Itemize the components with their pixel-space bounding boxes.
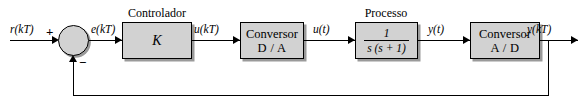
block-controlador-gain: K (152, 33, 161, 49)
wire-reference-to-sum (10, 40, 54, 41)
block-conversor-da[interactable]: Conversor D / A (240, 22, 304, 59)
block-diagram-canvas: Controlador Processo r(kT) + − e(kT) K u… (0, 0, 583, 103)
sign-plus: + (46, 25, 53, 38)
arrowhead-control-discrete (233, 36, 240, 44)
signal-label-output-continuous: y(t) (428, 23, 444, 35)
signal-label-error: e(kT) (91, 23, 115, 35)
summing-junction (58, 25, 89, 56)
signal-label-control-discrete: u(kT) (194, 23, 219, 35)
caption-processo: Processo (326, 6, 446, 21)
sign-minus: − (79, 56, 86, 69)
block-conversor-ad-line2: A / D (490, 41, 519, 55)
block-conversor-da-line2: D / A (257, 41, 286, 55)
block-conversor-ad-line1: Conversor (479, 27, 531, 41)
transfer-function-denominator: s (s + 1) (363, 41, 410, 54)
arrowhead-control-continuous (348, 36, 355, 44)
arrowhead-feedback (69, 55, 77, 62)
block-controlador[interactable]: K (122, 22, 192, 59)
arrowhead-output-discrete (571, 36, 578, 44)
wire-feedback-bottom (73, 95, 549, 96)
block-processo[interactable]: 1 s (s + 1) (355, 22, 418, 59)
wire-feedback-down (548, 40, 549, 95)
caption-controlador: Controlador (87, 6, 227, 21)
block-conversor-da-line1: Conversor (246, 27, 298, 41)
signal-label-output-discrete: y(kT) (527, 23, 551, 35)
arrowhead-output-continuous (463, 36, 470, 44)
wire-feedback-up (73, 60, 74, 95)
arrowhead-error (115, 36, 122, 44)
transfer-function-numerator: 1 (363, 27, 410, 40)
signal-label-control-continuous: u(t) (313, 23, 330, 35)
transfer-function-fraction: 1 s (s + 1) (363, 27, 410, 54)
signal-label-reference: r(kT) (10, 23, 34, 35)
